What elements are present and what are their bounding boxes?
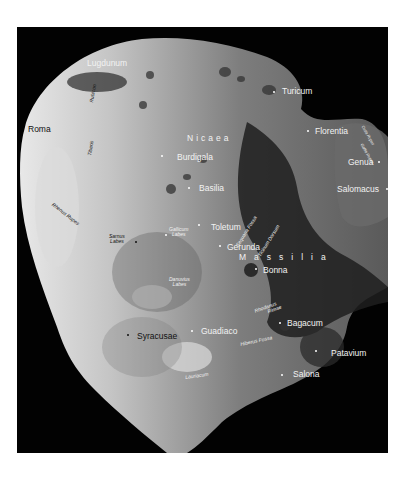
place-label-patavium: Patavium [331, 349, 366, 358]
place-label-lugdunum: Lugdunum [87, 59, 127, 68]
asteroid-surface [17, 27, 388, 453]
feature-label-gallicum-labes: Gallicum Labes [169, 227, 188, 237]
place-label-bagacum: Bagacum [287, 319, 323, 328]
place-label-burdigala: Burdigala [177, 153, 213, 162]
feature-label-sarnus-labes: Sarnus Labes [109, 234, 125, 244]
place-marker-bonna [255, 268, 257, 270]
place-label-guadiaco: Guadiaco [201, 327, 237, 336]
place-label-roma: Roma [28, 125, 51, 134]
place-marker-gerunda [219, 245, 221, 247]
place-label-toletum: Toletum [211, 223, 241, 232]
place-label-syracusae: Syracusae [137, 332, 177, 341]
place-marker-salona [281, 374, 283, 376]
place-label-gerunda: Gerunda [227, 243, 260, 252]
place-marker-syracusae [127, 334, 129, 336]
place-marker-bagacum [279, 322, 281, 324]
place-label-basilia: Basilia [199, 184, 224, 193]
feature-marker-sarnus-labes [135, 241, 137, 243]
place-label-florentia: Florentia [315, 127, 348, 136]
place-marker-salomacus [386, 188, 388, 190]
place-marker-guadiaco [191, 330, 193, 332]
feature-label-danuvius-labes: Danuvius Labes [169, 277, 190, 287]
place-marker-basilia [188, 187, 190, 189]
place-marker-turicum [273, 91, 275, 93]
region-label-nicaea: Nicaea [187, 134, 231, 143]
region-label-massilia: Massilia [239, 253, 334, 262]
place-marker-florentia [307, 130, 309, 132]
place-label-bonna: Bonna [263, 266, 288, 275]
feature-marker-gallicum-labes [165, 234, 167, 236]
place-marker-patavium [315, 350, 317, 352]
place-marker-burdigala [161, 155, 163, 157]
place-label-salona: Salona [293, 370, 319, 379]
asteroid-map: Nicaea Massilia Lugdunum Turicum Roma Fl… [17, 27, 388, 453]
place-label-salomacus: Salomacus [337, 185, 379, 194]
place-marker-toletum [198, 224, 200, 226]
place-marker-genua [378, 161, 380, 163]
place-label-turicum: Turicum [282, 87, 312, 96]
